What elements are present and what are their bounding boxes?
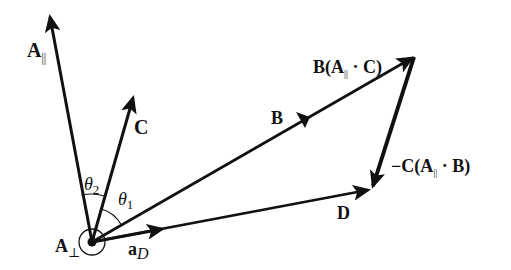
label-b: B bbox=[271, 108, 283, 128]
label-a-parallel: A|| bbox=[27, 39, 46, 65]
vector-b-mid-arrow bbox=[296, 112, 310, 128]
label-vertex-b-a-c: B(A|| · C) bbox=[313, 57, 382, 79]
label-minus-c-a-b: −C(A|| · B) bbox=[391, 156, 470, 178]
vector-b bbox=[92, 58, 412, 242]
vector-c bbox=[92, 98, 133, 242]
vector-diagram: A|| C B B(A|| · C) −C(A|| · B) D aD A⊥ θ… bbox=[0, 0, 511, 270]
label-theta-2: θ2 bbox=[84, 174, 99, 197]
label-theta-1: θ1 bbox=[118, 189, 133, 212]
label-a-d: aD bbox=[128, 239, 149, 262]
theta-1-arc bbox=[102, 209, 122, 225]
label-origin-a-perp: A⊥ bbox=[55, 236, 80, 260]
origin-dot bbox=[88, 238, 97, 247]
vector-a-parallel bbox=[50, 17, 92, 242]
label-d: D bbox=[337, 203, 350, 223]
label-c: C bbox=[134, 116, 148, 138]
